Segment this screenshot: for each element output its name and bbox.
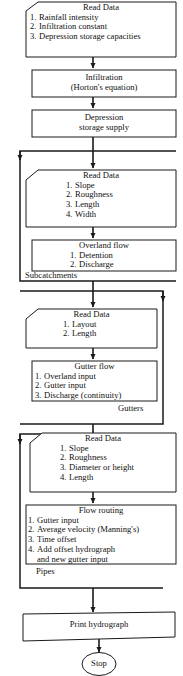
loop-label-gutters: Gutters (118, 404, 143, 414)
depression-storage-shape (32, 110, 176, 137)
flow-routing-shape (26, 505, 176, 564)
infiltration-shape (32, 70, 176, 97)
print-hydrograph-shape (23, 612, 175, 641)
overland-flow-shape (32, 240, 176, 271)
read-data-1-shape (26, 2, 176, 57)
gutter-flow-shape (32, 361, 157, 401)
stop-node[interactable]: Stop (82, 658, 116, 668)
loop-label-pipes: Pipes (36, 567, 55, 577)
read-data-3-shape (26, 309, 157, 348)
flowchart-canvas (0, 0, 183, 676)
read-data-2-shape (26, 170, 176, 227)
loop-label-subcatchments: Subcatchments (25, 271, 77, 281)
read-data-4-shape (30, 433, 176, 492)
